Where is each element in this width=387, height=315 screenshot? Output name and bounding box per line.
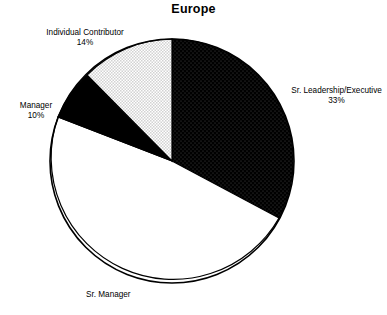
pie-label-manager-percent: 10% bbox=[10, 111, 62, 121]
pie-label-individual-contributor: Individual Contributor 14% bbox=[33, 28, 137, 48]
pie-label-sr-manager: Sr. Manager bbox=[86, 290, 206, 300]
pie-label-sr-leadership-executive-percent: 33% bbox=[286, 96, 387, 106]
pie-label-individual-contributor-percent: 14% bbox=[33, 38, 137, 48]
pie-label-sr-leadership-executive-name: Sr. Leadership/Executive bbox=[286, 86, 387, 96]
pie-label-manager-name: Manager bbox=[10, 101, 62, 111]
pie-label-sr-leadership-executive: Sr. Leadership/Executive 33% bbox=[286, 86, 387, 106]
pie-chart-figure: Europe Individual Contri bbox=[0, 0, 387, 315]
pie-label-manager: Manager 10% bbox=[10, 101, 62, 121]
pie-label-individual-contributor-name: Individual Contributor bbox=[33, 28, 137, 38]
pie-label-sr-manager-name: Sr. Manager bbox=[86, 290, 206, 300]
